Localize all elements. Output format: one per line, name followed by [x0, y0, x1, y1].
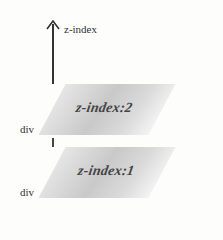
layer-element-label-z1: div [20, 186, 34, 198]
layer-label-z2: z-index:2 [75, 100, 134, 116]
layer-label-z1: z-index:1 [77, 163, 136, 179]
connector-line [52, 138, 54, 147]
z-axis-line [52, 24, 54, 84]
layer-element-label-z2: div [20, 123, 34, 135]
z-axis-label: z-index [64, 23, 97, 35]
